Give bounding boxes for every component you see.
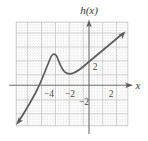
x-tick-label-neg2: −2 (65, 89, 75, 99)
x-tick-label-pos2: 2 (109, 89, 114, 99)
graph-figure: h(x) x −4 −2 2 2 −2 (0, 0, 148, 141)
x-axis-label: x (135, 79, 141, 91)
plot-canvas: h(x) x −4 −2 2 2 −2 (0, 0, 148, 141)
x-tick-label-neg4: −4 (44, 89, 54, 99)
function-label: h(x) (80, 4, 98, 17)
y-tick-label-pos2: 2 (93, 62, 98, 72)
y-tick-label-neg2: −2 (79, 97, 89, 107)
